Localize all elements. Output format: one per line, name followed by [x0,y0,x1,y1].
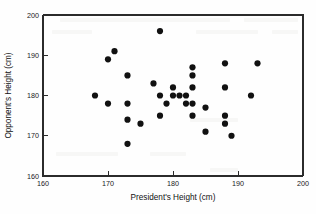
data-point [189,113,195,119]
x-tick-label-190: 190 [232,179,244,188]
y-tick-label-170: 170 [27,131,39,140]
y-axis-title: Opponent's Height (cm) [4,52,13,138]
y-tick-label-180: 180 [27,91,39,100]
data-point [157,92,163,98]
data-point [189,84,195,90]
x-tick-label-170: 170 [102,179,114,188]
data-point [157,113,163,119]
data-point [183,100,189,106]
data-point-layer [92,28,261,147]
y-tick-label-190: 190 [27,51,39,60]
data-point [163,100,169,106]
data-point [222,113,228,119]
data-point [105,100,111,106]
data-point [176,92,182,98]
data-point [157,28,163,34]
x-tick-label-160: 160 [37,179,49,188]
data-point [183,92,189,98]
data-point [222,121,228,127]
y-axis-tick-labels: 160 170 180 190 200 [27,11,39,181]
data-point [137,121,143,127]
x-axis-ticks [43,171,303,176]
data-point [189,100,195,106]
plot-canvas: 160 170 180 190 200 160 170 180 190 200 … [0,0,316,214]
data-point [92,92,98,98]
x-tick-label-180: 180 [167,179,179,188]
data-point [124,100,130,106]
y-axis-ticks [43,15,48,176]
data-point [170,84,176,90]
data-point [124,117,130,123]
data-point [222,60,228,66]
data-point [189,64,195,70]
data-point [254,60,260,66]
x-tick-label-200: 200 [297,179,309,188]
scatter-plot-figure: 160 170 180 190 200 160 170 180 190 200 … [0,0,316,214]
data-point [202,104,208,110]
data-point [189,72,195,78]
data-point [170,92,176,98]
x-axis-tick-labels: 160 170 180 190 200 [37,179,309,188]
y-tick-label-200: 200 [27,11,39,20]
data-point [222,84,228,90]
data-point [248,92,254,98]
data-point [202,129,208,135]
data-point [124,141,130,147]
data-point [150,80,156,86]
data-point [228,133,234,139]
data-point [124,72,130,78]
data-point [111,48,117,54]
x-axis-title: President's Height (cm) [131,193,216,202]
data-point [105,56,111,62]
